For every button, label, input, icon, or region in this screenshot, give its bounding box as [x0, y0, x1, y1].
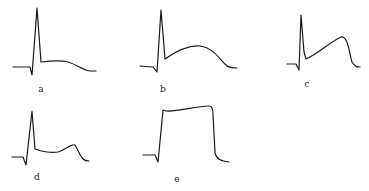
waveform-c — [287, 15, 360, 70]
waveform-b — [140, 10, 237, 72]
panel-label-d: d — [34, 173, 40, 182]
waveform-canvas — [0, 0, 369, 191]
panel-label-e: e — [174, 175, 179, 184]
panel-label-b: b — [160, 85, 166, 94]
panel-label-a: a — [38, 85, 43, 94]
waveform-a — [13, 8, 96, 75]
waveform-d — [12, 111, 89, 165]
waveform-e — [143, 106, 229, 162]
panel-label-c: c — [304, 80, 309, 89]
